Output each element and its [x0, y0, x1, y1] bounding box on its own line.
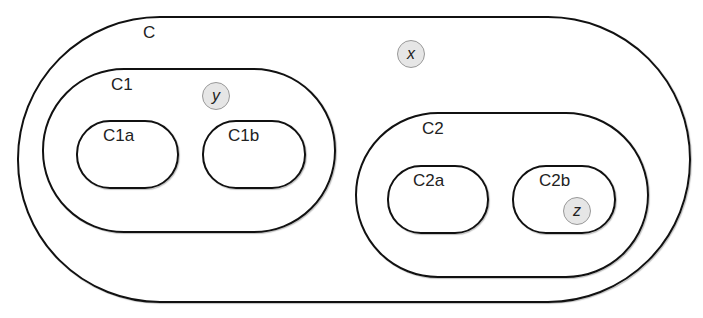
- cluster-c1-label: C1: [111, 76, 133, 93]
- cluster-c2-label: C2: [422, 120, 444, 137]
- cluster-c2b-label: C2b: [539, 172, 570, 189]
- cluster-c1a-label: C1a: [103, 127, 134, 144]
- point-y: y: [202, 82, 230, 110]
- point-z: z: [563, 197, 591, 225]
- point-x: x: [397, 40, 425, 68]
- cluster-c-label: C: [143, 24, 155, 41]
- cluster-c1b-label: C1b: [228, 127, 259, 144]
- cluster-c2a-label: C2a: [413, 172, 444, 189]
